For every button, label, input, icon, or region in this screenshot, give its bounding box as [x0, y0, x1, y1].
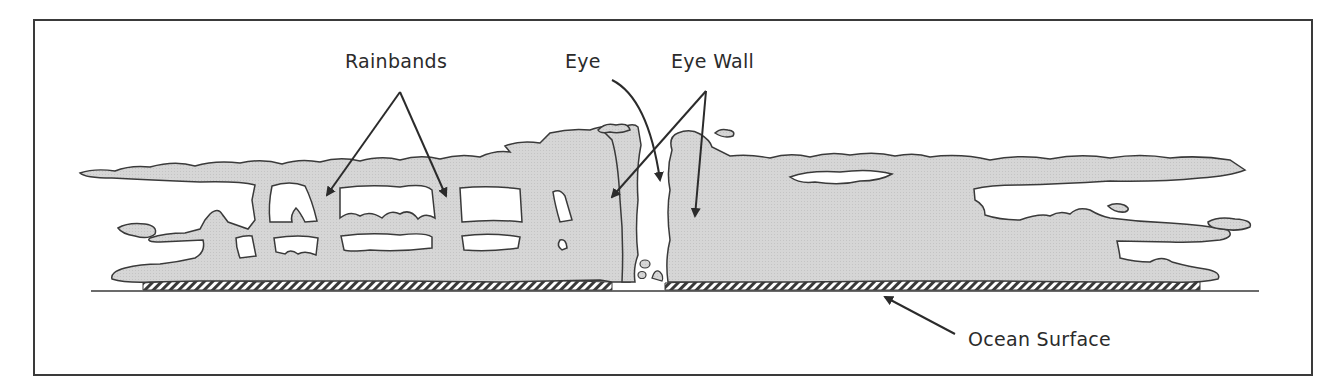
ocean-surface-label: Ocean Surface: [968, 328, 1111, 350]
eye-small-clouds: [638, 260, 663, 281]
eye-wall-label: Eye Wall: [671, 50, 754, 72]
rainbands-label: Rainbands: [345, 50, 447, 72]
right-cloud-mass: [667, 131, 1251, 282]
ocean-surface-arrow: [885, 297, 955, 334]
eye-label: Eye: [565, 50, 601, 72]
